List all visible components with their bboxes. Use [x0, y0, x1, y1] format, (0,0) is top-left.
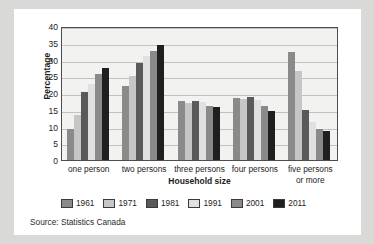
- legend-item[interactable]: 1991: [188, 198, 221, 208]
- bar: [67, 129, 74, 160]
- bar: [95, 74, 102, 160]
- y-axis-tick-label: 10: [40, 124, 58, 133]
- legend-swatch: [231, 199, 243, 208]
- source-note: Source: Statistics Canada: [30, 217, 125, 227]
- bar: [302, 110, 309, 160]
- legend-swatch: [188, 199, 200, 208]
- bars-layer: [62, 28, 337, 160]
- bar: [295, 71, 302, 160]
- bar: [323, 131, 330, 160]
- chart-card: 0510152025303540 Percentage one persontw…: [14, 9, 361, 235]
- bar: [309, 122, 316, 160]
- x-axis-category-label-line: five persons: [277, 164, 344, 175]
- legend-label: 2011: [288, 198, 306, 208]
- bar: [288, 52, 295, 160]
- bar-group: [67, 28, 109, 160]
- bar: [240, 99, 247, 160]
- bar-group: [178, 28, 220, 160]
- bar: [247, 97, 254, 160]
- bar-group: [288, 28, 330, 160]
- bar: [316, 129, 323, 160]
- legend-label: 1961: [76, 198, 94, 208]
- legend-swatch: [61, 199, 73, 208]
- legend-item[interactable]: 1981: [146, 198, 179, 208]
- bar-group: [233, 28, 275, 160]
- y-axis-title: Percentage: [42, 31, 52, 121]
- bar: [192, 101, 199, 160]
- legend-swatch: [146, 199, 158, 208]
- bar: [88, 84, 95, 160]
- bar: [178, 101, 185, 160]
- legend-label: 2001: [246, 198, 264, 208]
- bar: [185, 103, 192, 160]
- plot-area: [61, 27, 338, 161]
- bar: [150, 51, 157, 160]
- bar: [206, 106, 213, 160]
- bar: [81, 92, 88, 160]
- bar: [136, 63, 143, 160]
- screenshot-root: 0510152025303540 Percentage one persontw…: [0, 0, 374, 244]
- bar: [129, 76, 136, 160]
- legend: 196119711981199120012011: [61, 198, 345, 208]
- bar: [268, 111, 275, 160]
- legend-item[interactable]: 1971: [103, 198, 136, 208]
- bar: [199, 102, 206, 160]
- legend-item[interactable]: 2001: [231, 198, 264, 208]
- legend-label: 1991: [203, 198, 221, 208]
- legend-swatch: [103, 199, 115, 208]
- bar: [213, 107, 220, 160]
- legend-swatch: [273, 199, 285, 208]
- bar: [143, 56, 150, 160]
- bar: [122, 86, 129, 160]
- bar: [254, 100, 261, 160]
- bar: [74, 115, 81, 160]
- bar: [157, 45, 164, 160]
- bar: [102, 68, 109, 160]
- legend-item[interactable]: 2011: [273, 198, 306, 208]
- bar: [233, 98, 240, 160]
- legend-label: 1981: [161, 198, 179, 208]
- bar: [261, 106, 268, 160]
- bar-group: [122, 28, 164, 160]
- x-axis-title: Household size: [61, 176, 338, 186]
- legend-item[interactable]: 1961: [61, 198, 94, 208]
- y-axis-tick-label: 5: [40, 140, 58, 149]
- legend-label: 1971: [118, 198, 136, 208]
